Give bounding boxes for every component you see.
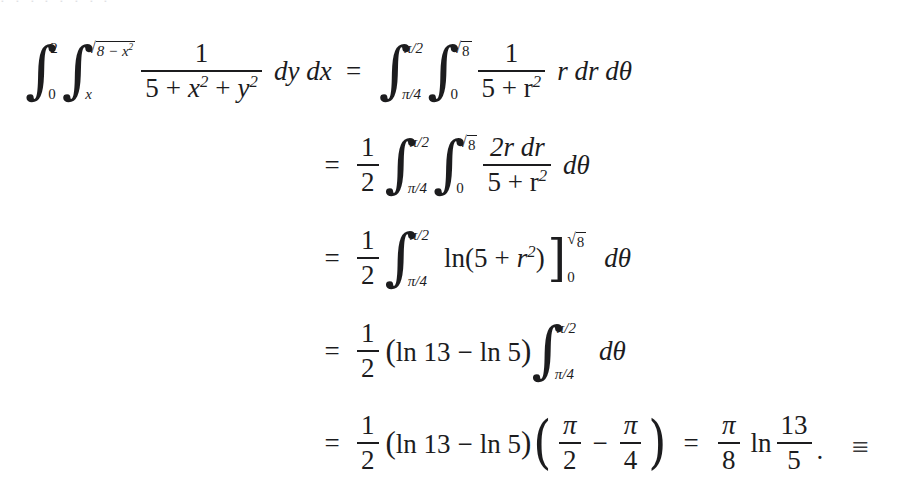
equals-sign-2: = — [310, 150, 354, 181]
fraction-denominator: 5 + r2 — [483, 168, 551, 197]
left-paren: ( — [386, 335, 396, 366]
equation-line-3: = 1 2 ∫ π/2 π/4 ln(5+r2) ] √ 8 — [310, 215, 631, 301]
fraction-bar — [357, 257, 379, 259]
integral-limits: √ 8 − x2 x — [87, 47, 135, 95]
fraction-denominator: 2 — [559, 446, 581, 475]
right-bracket-icon: ] — [547, 238, 566, 278]
big-right-paren: ) — [649, 422, 667, 464]
ln-13: ln 13 — [396, 337, 451, 367]
fraction-numerator: 1 — [191, 39, 213, 68]
integral-upper-limit: √ 8 — [458, 135, 477, 154]
ln-5: ln 5 — [480, 337, 521, 367]
fraction-denominator: 2 — [357, 168, 379, 197]
equation-line-5: = 1 2 (ln 13−ln 5) ( π 2 − π 4 ) = π 8 — [310, 400, 823, 486]
ln-13: ln 13 — [396, 429, 451, 459]
integral-upper-limit: π/2 — [557, 321, 576, 336]
evaluation-bracket: ] √ 8 0 — [547, 238, 587, 278]
radical-icon: √ — [87, 40, 96, 56]
sqrt-group: √ 8 − x2 — [87, 41, 135, 60]
coefficient-one-half: 1 2 — [357, 411, 379, 475]
fraction-bar — [777, 442, 812, 444]
equals-sign-4: = — [310, 336, 354, 367]
equals-sign-3: = — [310, 243, 354, 274]
pi-over-4-fraction: π 4 — [620, 411, 642, 475]
theta-integral: ∫ π/2 π/4 — [385, 234, 430, 282]
result-log-label: ln — [751, 428, 772, 459]
fraction-numerator: 1 — [501, 39, 523, 68]
math-derivation-block: ‧ ‧ ‧ ‧ ‧ ‧ ‧ ‧ ∫ 2 0 ∫ √ 8 − x2 x — [0, 0, 899, 496]
end-of-proof-icon: ≡ — [852, 432, 869, 462]
integral-lower-limit: 0 — [48, 87, 58, 102]
inner-integral-lhs: ∫ √ 8 − x2 x — [62, 47, 135, 95]
minus-operator: − — [458, 337, 473, 367]
integrand-fraction-lhs: 1 5+x2+y2 — [141, 39, 262, 103]
outer-integral-lhs: ∫ 2 0 — [25, 47, 58, 95]
equals-sign-5: = — [310, 428, 354, 459]
evaluation-limits: √ 8 0 — [567, 238, 586, 278]
fraction-denominator: 2 — [357, 446, 379, 475]
coefficient-one-half: 1 2 — [357, 133, 379, 197]
radicand: 8 — [576, 232, 587, 251]
radical-icon: √ — [458, 134, 467, 150]
equation-line-1: ∫ 2 0 ∫ √ 8 − x2 x 1 5+x2+y — [22, 28, 632, 114]
integral-lower-limit: π/4 — [555, 367, 576, 382]
fraction-denominator: 8 — [718, 446, 740, 475]
log-expression: ln(5+r2) — [444, 243, 545, 274]
fraction-numerator: 2r dr — [486, 133, 549, 162]
integrand-fraction-rhs: 1 5 + r2 — [478, 39, 546, 103]
integral-lower-limit: π/4 — [402, 87, 423, 102]
fraction-bar — [357, 350, 379, 352]
differential-dtheta: dθ — [599, 336, 626, 367]
integral-lower-limit: π/4 — [408, 181, 429, 196]
fraction-numerator: 13 — [777, 411, 812, 440]
fraction-numerator: 1 — [357, 411, 379, 440]
eval-upper-limit: √ 8 — [567, 232, 586, 251]
fraction-bar — [357, 164, 379, 166]
minus-operator: − — [593, 428, 608, 459]
differential-dtheta: dθ — [604, 243, 631, 274]
pi-over-8-fraction: π 8 — [718, 411, 740, 475]
sqrt-group: √ 8 — [452, 41, 471, 60]
coefficient-one-half: 1 2 — [357, 226, 379, 290]
fraction-denominator: 2 — [357, 261, 379, 290]
integral-upper-limit: π/2 — [410, 228, 429, 243]
fraction-numerator: 1 — [357, 226, 379, 255]
integral-lower-limit: x — [85, 87, 135, 102]
radicand: 8 — [461, 41, 472, 60]
theta-integral: ∫ π/2 π/4 — [531, 327, 576, 375]
sqrt-group: √ 8 — [458, 135, 477, 154]
log-difference-group: (ln 13−ln 5) — [386, 335, 532, 368]
fraction-denominator: 5+x2+y2 — [141, 74, 262, 103]
integral-upper-limit: π/2 — [404, 41, 423, 56]
fraction-denominator: 4 — [620, 446, 642, 475]
radical-icon: √ — [567, 231, 576, 247]
equation-line-2: = 1 2 ∫ π/2 π/4 ∫ √ 8 0 — [310, 122, 590, 208]
fraction-numerator: π — [620, 411, 642, 440]
ln-5: ln 5 — [480, 429, 521, 459]
minus-operator: − — [458, 429, 473, 459]
inner-integral: ∫ √ 8 0 — [433, 141, 477, 189]
integral-lower-limit: 0 — [456, 181, 477, 196]
terminal-period: . — [817, 435, 824, 486]
outer-integral-rhs: ∫ π/2 π/4 — [379, 47, 424, 95]
integral-upper-limit: 2 — [50, 41, 58, 56]
integral-lower-limit: 0 — [450, 87, 471, 102]
differentials-lhs: dy dx — [274, 56, 332, 87]
fraction-numerator: 1 — [357, 133, 379, 162]
fraction-numerator: π — [559, 411, 581, 440]
fraction-bar — [357, 442, 379, 444]
fraction-denominator: 2 — [357, 354, 379, 383]
integral-upper-limit: π/2 — [410, 135, 429, 150]
equation-line-4: = 1 2 (ln 13−ln 5) ∫ π/2 π/4 dθ — [310, 308, 626, 394]
equals-sign-1: = — [332, 56, 376, 87]
fraction-bar — [559, 442, 581, 444]
result-equals-sign: = — [669, 428, 713, 459]
fraction-bar — [718, 442, 740, 444]
differentials-rhs: r dr dθ — [557, 56, 632, 87]
inner-integral-rhs: ∫ √ 8 0 — [427, 47, 471, 95]
fraction-numerator: π — [718, 411, 740, 440]
thirteen-over-five-fraction: 13 5 — [777, 411, 812, 475]
integral-upper-limit: √ 8 − x2 — [87, 41, 135, 60]
fraction-bar — [620, 442, 642, 444]
eval-lower-limit: 0 — [567, 270, 586, 285]
